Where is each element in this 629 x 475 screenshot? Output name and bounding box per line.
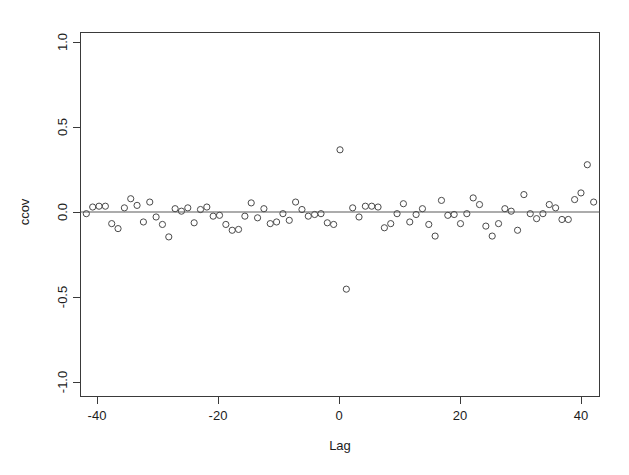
y-tick-label: 0.5 [55, 118, 70, 136]
data-point [331, 221, 337, 227]
data-point [508, 208, 514, 214]
x-axis-title: Lag [329, 438, 351, 453]
data-point [400, 201, 406, 207]
data-point [153, 214, 159, 220]
data-point [565, 216, 571, 222]
data-point [521, 191, 527, 197]
data-point [578, 190, 584, 196]
data-point [261, 206, 267, 212]
y-axis-ticks [73, 43, 80, 383]
data-point [223, 221, 229, 227]
data-point [470, 195, 476, 201]
data-point [254, 215, 260, 221]
data-point [381, 225, 387, 231]
data-point [204, 204, 210, 210]
data-point [102, 203, 108, 209]
y-tick-label: 1.0 [55, 33, 70, 51]
data-point [293, 199, 299, 205]
data-point [90, 204, 96, 210]
data-point [445, 212, 451, 218]
data-point [267, 221, 273, 227]
data-point [305, 213, 311, 219]
data-point [356, 214, 362, 220]
data-point [172, 206, 178, 212]
data-point [242, 213, 248, 219]
data-point [388, 221, 394, 227]
y-tick-label: 0.0 [55, 203, 70, 221]
data-point [553, 205, 559, 211]
data-point [324, 220, 330, 226]
data-point [96, 203, 102, 209]
data-point [407, 219, 413, 225]
y-axis-tick-labels: 1.0 0.5 0.0 -0.5 -1.0 [55, 33, 70, 393]
scatter-plot-svg: 1.0 0.5 0.0 -0.5 -1.0 -40 -20 0 20 40 La… [0, 0, 629, 475]
data-point-faded [584, 162, 590, 168]
data-point [572, 196, 578, 202]
data-point [121, 205, 127, 211]
x-tick-label: -20 [209, 408, 228, 423]
y-tick-label: -0.5 [55, 286, 70, 308]
data-point [546, 201, 552, 207]
data-point [533, 216, 539, 222]
data-point [235, 226, 241, 232]
data-points-layer [83, 147, 597, 293]
x-tick-label: 0 [335, 408, 342, 423]
data-point [273, 219, 279, 225]
y-tick-label: -1.0 [55, 371, 70, 393]
data-point [438, 197, 444, 203]
x-axis-ticks [98, 397, 582, 404]
data-point [286, 217, 292, 223]
data-point [140, 219, 146, 225]
data-point [109, 221, 115, 227]
data-point [178, 208, 184, 214]
data-point [489, 233, 495, 239]
x-tick-label: 40 [574, 408, 588, 423]
data-point [362, 203, 368, 209]
data-point [350, 205, 356, 211]
data-point [115, 226, 121, 232]
data-point [375, 204, 381, 210]
data-point [191, 220, 197, 226]
chart-figure: 1.0 0.5 0.0 -0.5 -1.0 -40 -20 0 20 40 La… [0, 0, 629, 475]
data-point [128, 196, 134, 202]
x-tick-label: 20 [453, 408, 467, 423]
data-point [483, 223, 489, 229]
data-point [343, 286, 349, 292]
data-point [369, 203, 375, 209]
data-point [426, 221, 432, 227]
data-point [591, 199, 597, 205]
data-point [337, 147, 343, 153]
data-point [147, 199, 153, 205]
data-point [502, 206, 508, 212]
data-point [495, 221, 501, 227]
data-point [419, 206, 425, 212]
data-point [248, 200, 254, 206]
data-point [559, 216, 565, 222]
x-axis-tick-labels: -40 -20 0 20 40 [88, 408, 589, 423]
data-point [185, 205, 191, 211]
data-point [210, 213, 216, 219]
data-point [216, 212, 222, 218]
data-point [457, 221, 463, 227]
data-point [476, 201, 482, 207]
data-point [432, 233, 438, 239]
x-tick-label: -40 [88, 408, 107, 423]
data-point [229, 227, 235, 233]
data-point [159, 221, 165, 227]
y-axis-title: ccov [17, 198, 32, 225]
data-point [134, 202, 140, 208]
data-point [514, 227, 520, 233]
data-point [166, 234, 172, 240]
